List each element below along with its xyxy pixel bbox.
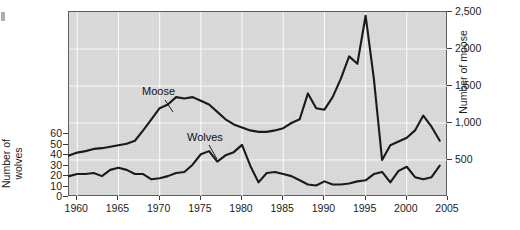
y-axis-left-tick-label: 20 bbox=[38, 170, 62, 181]
x-axis-tick bbox=[76, 196, 77, 200]
x-axis-tick bbox=[159, 196, 160, 200]
y-axis-left-tick bbox=[63, 196, 68, 197]
plot-area: Moose Wolves bbox=[68, 11, 447, 196]
x-axis-tick bbox=[406, 196, 407, 200]
x-axis-tick bbox=[447, 196, 448, 200]
series-line-moose bbox=[69, 16, 440, 160]
x-axis-tick bbox=[241, 196, 242, 200]
y-axis-title-left-line-2: wolves bbox=[12, 128, 24, 200]
x-axis-tick bbox=[323, 196, 324, 200]
series-label-wolves: Wolves bbox=[187, 132, 223, 143]
y-axis-left-tick-label: 30 bbox=[38, 159, 62, 170]
y-axis-right-tick bbox=[447, 85, 452, 86]
x-axis-tick bbox=[117, 196, 118, 200]
y-axis-left-tick-label: 0 bbox=[38, 191, 62, 202]
y-axis-right-tick-label: 500 bbox=[455, 154, 473, 165]
x-axis-tick-label: 1960 bbox=[65, 203, 88, 214]
y-axis-right-tick bbox=[447, 11, 452, 12]
y-axis-right-tick bbox=[447, 122, 452, 123]
y-axis-title-left: Number ofwolves bbox=[1, 128, 24, 200]
x-axis-tick-label: 1975 bbox=[188, 203, 211, 214]
y-axis-left-tick bbox=[63, 165, 68, 166]
y-axis-left-tick bbox=[63, 144, 68, 145]
x-axis-tick-label: 2005 bbox=[435, 203, 458, 214]
x-axis-tick-label: 2000 bbox=[394, 203, 417, 214]
y-axis-right-tick bbox=[447, 159, 452, 160]
x-axis-tick bbox=[200, 196, 201, 200]
x-axis-tick-label: 1995 bbox=[353, 203, 376, 214]
x-axis-tick-label: 1990 bbox=[312, 203, 335, 214]
figure-corner-mark bbox=[1, 12, 5, 21]
x-axis-tick-label: 1980 bbox=[229, 203, 252, 214]
y-axis-right-tick-label: 2,500 bbox=[455, 6, 481, 17]
y-axis-left-tick bbox=[63, 133, 68, 134]
y-axis-left-tick bbox=[63, 154, 68, 155]
y-axis-left-tick bbox=[63, 175, 68, 176]
figure: Moose Wolves 196019651970197519801985199… bbox=[0, 0, 520, 230]
y-axis-title-left-line-1: Number of bbox=[1, 128, 13, 200]
series-label-moose: Moose bbox=[142, 86, 175, 97]
x-axis-tick-label: 1970 bbox=[147, 203, 170, 214]
y-axis-left-tick-label: 50 bbox=[38, 139, 62, 150]
series-lines bbox=[69, 12, 448, 197]
x-axis-tick-label: 1965 bbox=[106, 203, 129, 214]
x-axis-tick-label: 1985 bbox=[271, 203, 294, 214]
y-axis-title-right: Number of moose bbox=[458, 24, 470, 120]
y-axis-right-tick bbox=[447, 48, 452, 49]
y-axis-left-tick-label: 60 bbox=[38, 128, 62, 139]
y-axis-left-tick-label: 40 bbox=[38, 149, 62, 160]
y-axis-left-tick bbox=[63, 186, 68, 187]
x-axis-tick bbox=[365, 196, 366, 200]
y-axis-left-tick-label: 10 bbox=[38, 180, 62, 191]
x-axis-tick bbox=[282, 196, 283, 200]
series-line-wolves bbox=[69, 145, 440, 186]
